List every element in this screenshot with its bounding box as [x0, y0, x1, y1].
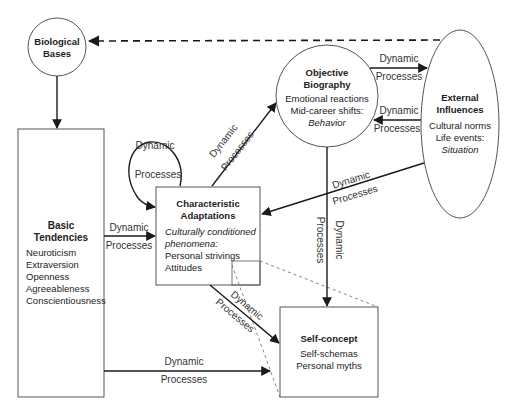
biography-title-1: Objective — [306, 67, 349, 78]
svg-text:Processes: Processes — [374, 123, 421, 134]
node-biological-bases: Biological Bases — [28, 18, 86, 76]
node-characteristic-adaptations: Characteristic Adaptations Culturally co… — [156, 187, 260, 285]
external-item: Cultural norms — [429, 120, 491, 131]
svg-text:Dynamic: Dynamic — [380, 53, 419, 64]
self-concept-item: Personal myths — [296, 360, 362, 371]
basic-tendency-item: Agreeableness — [26, 283, 90, 294]
dashed-feedback-arrow — [89, 40, 452, 41]
svg-text:Processes: Processes — [135, 169, 182, 180]
basic-tendency-item: Openness — [26, 271, 70, 282]
adaptations-item: Attitudes — [165, 262, 202, 273]
svg-text:Processes: Processes — [315, 217, 326, 264]
svg-text:Dynamic: Dynamic — [165, 356, 204, 367]
edge-basic-to-self-concept: Dynamic Processes — [104, 356, 270, 385]
edge-external-to-adaptations: Dynamic Processes — [262, 163, 424, 214]
basic-tendency-item: Neuroticism — [26, 247, 76, 258]
svg-text:Processes: Processes — [376, 71, 423, 82]
edge-biography-to-self-concept: Processes Dynamic — [315, 147, 345, 306]
external-italic: Situation — [442, 144, 479, 155]
basic-tendency-item: Conscientiousness — [26, 295, 106, 306]
svg-text:Dynamic: Dynamic — [136, 140, 175, 151]
svg-text:Dynamic: Dynamic — [334, 221, 345, 260]
adaptations-italic-2: phenomena: — [164, 238, 218, 249]
edge-biography-to-external: Dynamic Processes — [370, 53, 427, 82]
edge-adaptations-to-biography: Dynamic Processes — [207, 103, 276, 186]
edge-basic-to-adaptations: Dynamic Processes — [104, 222, 155, 251]
edge-adaptations-to-self-concept: Dynamic Processes — [210, 285, 279, 343]
adaptations-title-2: Adaptations — [181, 210, 236, 221]
self-concept-item: Self-schemas — [300, 348, 358, 359]
adaptations-title-1: Characteristic — [176, 198, 239, 209]
biography-italic: Behavior — [308, 117, 346, 128]
external-item: Life events: — [436, 132, 485, 143]
svg-text:Processes: Processes — [106, 240, 153, 251]
basic-tendencies-title-2: Tendencies — [34, 232, 89, 243]
biography-title-2: Biography — [304, 79, 352, 90]
biography-item: Emotional reactions — [285, 93, 369, 104]
external-title-1: External — [441, 92, 479, 103]
biological-bases-title-2: Bases — [43, 48, 71, 59]
node-basic-tendencies: Basic Tendencies Neuroticism Extraversio… — [18, 129, 106, 397]
node-self-concept: Self-concept Self-schemas Personal myths — [280, 307, 378, 397]
node-objective-biography: Objective Biography Emotional reactions … — [276, 45, 378, 147]
svg-text:Processes: Processes — [161, 374, 208, 385]
edge-external-to-biography: Dynamic Processes — [374, 105, 423, 134]
biological-bases-title-1: Biological — [34, 36, 79, 47]
personality-systems-diagram: Biological Bases Basic Tendencies Neurot… — [0, 0, 513, 412]
node-external-influences: External Influences Cultural norms Life … — [421, 30, 499, 218]
svg-text:Dynamic: Dynamic — [380, 105, 419, 116]
biography-item: Mid-career shifts: — [291, 105, 364, 116]
adaptations-italic-1: Culturally conditioned — [165, 226, 257, 237]
adaptations-item: Personal strivings — [165, 250, 240, 261]
inset-dashed-line-top — [260, 261, 378, 307]
external-title-2: Influences — [437, 104, 484, 115]
basic-tendency-item: Extraversion — [26, 259, 79, 270]
basic-tendencies-title-1: Basic — [48, 220, 75, 231]
svg-text:Dynamic: Dynamic — [110, 222, 149, 233]
self-concept-title: Self-concept — [300, 333, 358, 344]
